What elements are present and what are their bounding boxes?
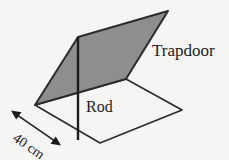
trapdoor-label: Trapdoor [152, 41, 215, 60]
trapdoor-rod-figure: Trapdoor Rod 40 cm [0, 0, 229, 160]
rod-label: Rod [86, 98, 113, 115]
figure-container: Trapdoor Rod 40 cm [0, 0, 229, 160]
